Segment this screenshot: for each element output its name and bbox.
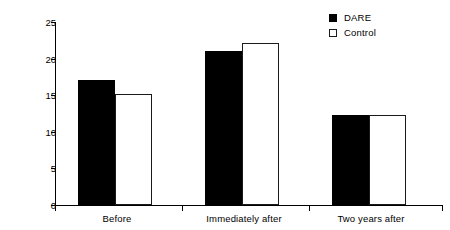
x-tick-start — [55, 206, 56, 211]
y-tick-label-20: 20 — [34, 55, 56, 64]
x-tick-end — [442, 206, 443, 211]
bar-before-dare — [78, 80, 115, 205]
y-tick-label-25: 25 — [34, 18, 56, 27]
filled-square-swatch-icon — [329, 14, 337, 22]
bar-immediately-after-control — [242, 43, 279, 205]
y-tick-label-15: 15 — [34, 91, 56, 100]
y-tick-label-10: 10 — [34, 128, 56, 137]
legend-item-control: Control — [329, 27, 376, 38]
x-tick-sep-1 — [182, 206, 183, 211]
y-axis-label: Per cent — [0, 58, 1, 118]
bar-chart-figure: DARE Control Per cent 25 20 15 10 5 0 — [0, 0, 450, 230]
y-tick-label-5: 5 — [34, 164, 56, 173]
legend-label-control: Control — [344, 28, 376, 38]
x-tick-sep-2 — [309, 206, 310, 211]
bar-before-control — [115, 94, 152, 205]
legend-label-dare: DARE — [344, 13, 371, 23]
x-category-label-before: Before — [103, 213, 132, 224]
legend-item-dare: DARE — [329, 12, 376, 23]
open-square-swatch-icon — [329, 29, 337, 37]
x-axis-line — [55, 205, 443, 206]
x-category-label-two-years-after: Two years after — [337, 213, 404, 224]
bar-immediately-after-dare — [205, 51, 242, 205]
chart-legend: DARE Control — [329, 12, 376, 38]
y-axis-line — [55, 22, 56, 206]
bar-two-years-after-control — [369, 115, 406, 205]
y-tick-label-0: 0 — [34, 201, 56, 210]
x-category-label-immediately-after: Immediately after — [206, 213, 281, 224]
bar-two-years-after-dare — [332, 115, 369, 205]
